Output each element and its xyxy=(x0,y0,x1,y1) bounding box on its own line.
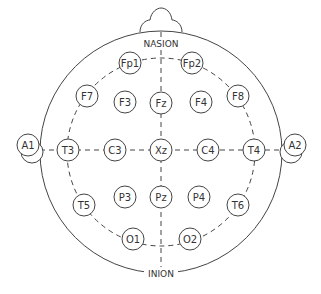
electrode-label: C4 xyxy=(201,145,214,156)
electrode-xz: Xz xyxy=(150,139,172,161)
ear-left: A1 xyxy=(17,134,43,163)
electrode-p3: P3 xyxy=(114,186,136,208)
electrode-label: O2 xyxy=(183,234,197,245)
electrode-label: P4 xyxy=(193,192,205,203)
electrode-f3: F3 xyxy=(114,91,136,113)
electrode-label-a1: A1 xyxy=(21,140,34,151)
electrode-t6: T6 xyxy=(227,194,249,216)
electrode-label: P3 xyxy=(119,192,131,203)
electrode-label: Fz xyxy=(155,98,166,109)
electrode-o1: O1 xyxy=(122,228,144,250)
nose-outline xyxy=(140,8,182,32)
electrode-label: O1 xyxy=(126,234,140,245)
electrode-c4: C4 xyxy=(197,139,219,161)
electrode-label: Fp1 xyxy=(121,58,139,69)
electrode-fz: Fz xyxy=(150,92,172,114)
electrode-f7: F7 xyxy=(76,85,98,107)
electrode-o2: O2 xyxy=(179,228,201,250)
electrode-c3: C3 xyxy=(104,139,126,161)
electrode-label: Pz xyxy=(155,192,166,203)
electrode-p4: P4 xyxy=(188,186,210,208)
electrode-label: T5 xyxy=(77,200,90,211)
nasion-label: NASION xyxy=(143,39,178,49)
electrode-fp1: Fp1 xyxy=(119,52,141,74)
electrode-t5: T5 xyxy=(73,194,95,216)
electrode-label: C3 xyxy=(108,145,121,156)
electrode-t3: T3 xyxy=(57,139,79,161)
electrode-t4: T4 xyxy=(243,139,265,161)
inion-label: INION xyxy=(148,269,174,279)
eeg-diagram: A1 A2 NASION INION Fp1Fp2F7F3FzF4F8T3C3X… xyxy=(0,0,321,294)
electrode-label: T3 xyxy=(61,145,74,156)
electrode-label: F3 xyxy=(119,97,131,108)
electrode-f8: F8 xyxy=(227,85,249,107)
electrode-pz: Pz xyxy=(150,186,172,208)
ear-right: A2 xyxy=(280,134,306,163)
electrode-f4: F4 xyxy=(190,91,212,113)
electrode-label: Fp2 xyxy=(183,58,201,69)
electrode-label: T6 xyxy=(231,200,244,211)
electrode-fp2: Fp2 xyxy=(181,52,203,74)
electrode-label: F8 xyxy=(232,91,244,102)
electrode-label: T4 xyxy=(247,145,260,156)
electrode-label: Xz xyxy=(155,145,167,156)
electrode-label: F7 xyxy=(81,91,93,102)
electrode-label: F4 xyxy=(195,97,207,108)
electrode-label-a2: A2 xyxy=(288,140,301,151)
